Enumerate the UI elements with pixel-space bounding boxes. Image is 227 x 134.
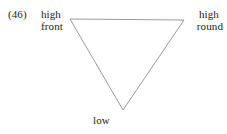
vertex-label-top-left: high front [41, 8, 63, 32]
vowel-triangle-figure: (46) high front high round low [0, 0, 227, 134]
vertex-label-top-right-line2: round [197, 20, 223, 32]
vertex-label-bottom-line1: low [93, 114, 110, 126]
vertex-label-top-right: high round [197, 8, 223, 32]
vertex-label-bottom: low [0, 114, 227, 126]
vertex-label-top-left-line1: high [41, 8, 63, 20]
triangle-edge-left [70, 19, 123, 110]
vertex-label-top-right-line1: high [197, 8, 223, 20]
example-number: (46) [8, 8, 27, 20]
triangle-edge-right [123, 20, 184, 110]
triangle-edge-top [70, 19, 184, 20]
vertex-label-top-left-line2: front [41, 20, 63, 32]
